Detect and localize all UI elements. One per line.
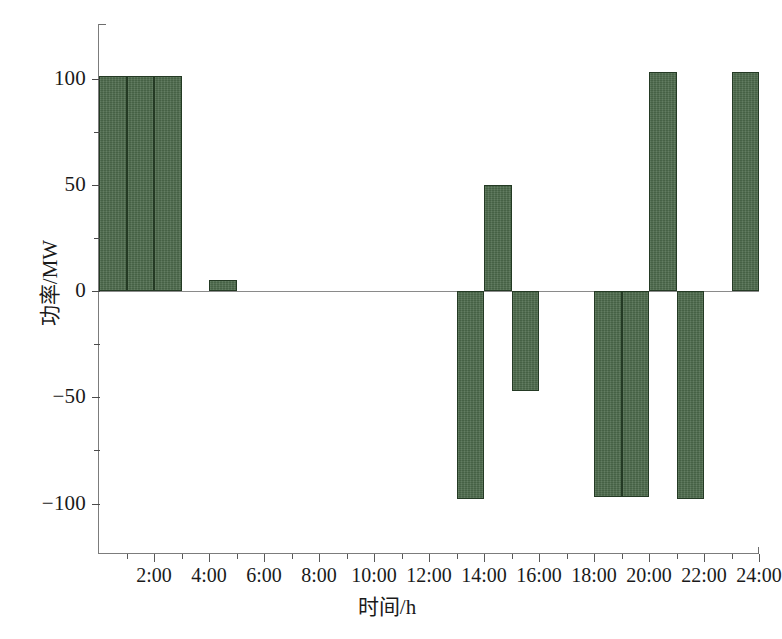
x-axis-tick-major xyxy=(264,554,265,562)
bar xyxy=(99,76,127,291)
x-axis-tick-major xyxy=(209,554,210,562)
x-axis-tick-label: 10:00 xyxy=(351,564,397,586)
x-axis-tick-major xyxy=(484,554,485,562)
y-axis-tick-major xyxy=(92,79,100,80)
bar xyxy=(649,72,677,291)
x-axis-tick-minor xyxy=(622,554,623,559)
x-axis-tick-minor xyxy=(512,554,513,559)
y-axis-tick-label: −50 xyxy=(30,386,86,407)
bar xyxy=(622,291,650,497)
x-axis-tick-minor xyxy=(567,554,568,559)
bar xyxy=(209,280,237,291)
y-axis-title: 功率/MW xyxy=(33,223,63,343)
y-axis-tick-label: 100 xyxy=(30,68,86,89)
y-axis-tick-minor xyxy=(94,238,100,239)
x-axis-tick-minor xyxy=(182,554,183,559)
x-axis-tick-label: 14:00 xyxy=(461,564,507,586)
y-axis-tick-label: −100 xyxy=(30,493,86,514)
x-axis-tick-label: 18:00 xyxy=(571,564,617,586)
x-axis-tick-label: 2:00 xyxy=(136,564,172,586)
x-axis-tick-minor xyxy=(402,554,403,559)
x-axis-tick-major xyxy=(649,554,650,562)
x-axis-tick-label: 24:00 xyxy=(736,564,782,586)
x-axis-tick-label: 20:00 xyxy=(626,564,672,586)
y-axis-tick-major xyxy=(92,504,100,505)
bar xyxy=(732,72,760,291)
x-axis-tick-major xyxy=(704,554,705,562)
x-axis-tick-label: 12:00 xyxy=(406,564,452,586)
x-axis-tick-major xyxy=(594,554,595,562)
x-axis-tick-label: 4:00 xyxy=(191,564,227,586)
bar xyxy=(127,76,155,291)
y-axis-tick-major xyxy=(92,291,100,292)
bar xyxy=(512,291,540,391)
y-axis-tick-minor xyxy=(94,344,100,345)
y-axis-tick-major xyxy=(92,397,100,398)
x-axis-tick-major xyxy=(374,554,375,562)
x-axis-tick-label: 16:00 xyxy=(516,564,562,586)
x-axis-tick-major xyxy=(429,554,430,562)
y-axis-tick-label: 50 xyxy=(30,174,86,195)
bar xyxy=(677,291,705,499)
figure-caption xyxy=(0,624,774,639)
bar xyxy=(594,291,622,497)
x-axis-tick-minor xyxy=(347,554,348,559)
x-axis-tick-major xyxy=(539,554,540,562)
x-axis-tick-minor xyxy=(457,554,458,559)
x-axis-tick-minor xyxy=(732,554,733,559)
x-axis-tick-major xyxy=(759,554,760,562)
bar xyxy=(484,185,512,291)
y-axis-tick-minor xyxy=(94,450,100,451)
x-axis-tick-major xyxy=(319,554,320,562)
x-axis-tick-minor xyxy=(292,554,293,559)
x-axis-tick-minor xyxy=(127,554,128,559)
y-axis-tick-major xyxy=(92,185,100,186)
x-axis-tick-label: 6:00 xyxy=(246,564,282,586)
x-axis-tick-label: 22:00 xyxy=(681,564,727,586)
x-axis-tick-minor xyxy=(237,554,238,559)
bar xyxy=(457,291,485,499)
x-axis-tick-label: 8:00 xyxy=(301,564,337,586)
bar xyxy=(154,76,182,291)
x-axis-tick-minor xyxy=(677,554,678,559)
x-axis-tick-major xyxy=(154,554,155,562)
x-axis-title: 时间/h xyxy=(0,590,774,620)
y-axis-tick-minor xyxy=(94,132,100,133)
